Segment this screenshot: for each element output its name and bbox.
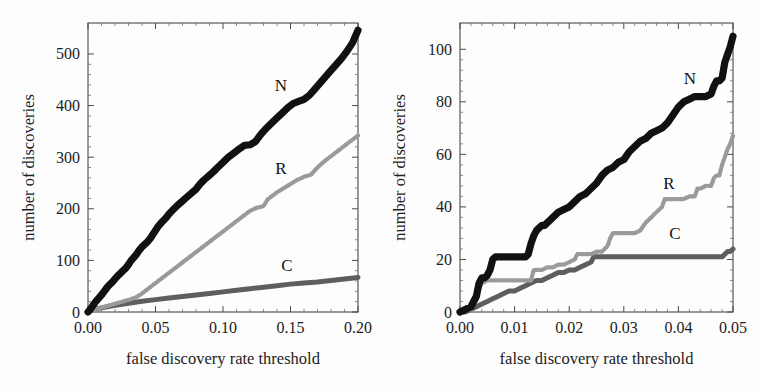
series-label-c: C <box>669 224 680 243</box>
chart-panel-left: 0.000.050.100.150.200100200300400500NRCf… <box>0 0 379 390</box>
x-tick-label: 0.05 <box>719 319 747 336</box>
y-tick-label: 200 <box>56 200 80 217</box>
figure-container: 0.000.050.100.150.200100200300400500NRCf… <box>0 0 758 390</box>
y-tick-label: 0 <box>72 304 80 321</box>
series-label-c: C <box>281 256 292 275</box>
x-axis-title: false discovery rate threshold <box>126 349 321 368</box>
x-tick-label: 0.10 <box>209 319 237 336</box>
chart-panel-right: 0.000.010.020.030.040.05020406080100NRCf… <box>379 0 758 390</box>
chart-svg-left: 0.000.050.100.150.200100200300400500NRCf… <box>0 0 379 390</box>
y-axis-title: number of discoveries <box>390 94 409 241</box>
y-axis-title: number of discoveries <box>19 94 38 241</box>
y-tick-label: 500 <box>56 45 80 62</box>
x-tick-label: 0.04 <box>664 319 692 336</box>
y-tick-label: 80 <box>436 93 452 110</box>
x-tick-label: 0.05 <box>142 319 170 336</box>
curve-n <box>88 30 358 312</box>
y-tick-label: 400 <box>56 97 80 114</box>
curve-r <box>460 136 733 312</box>
x-tick-label: 0.01 <box>501 319 529 336</box>
y-tick-label: 40 <box>436 198 452 215</box>
x-tick-label: 0.15 <box>277 319 305 336</box>
series-label-n: N <box>684 69 696 88</box>
chart-svg-right: 0.000.010.020.030.040.05020406080100NRCf… <box>379 0 758 390</box>
x-axis-title: false discovery rate threshold <box>500 349 695 368</box>
series-label-r: R <box>275 159 287 178</box>
series-label-n: N <box>275 76 287 95</box>
series-label-r: R <box>663 174 675 193</box>
x-tick-label: 0.02 <box>555 319 583 336</box>
y-tick-label: 60 <box>436 146 452 163</box>
y-tick-label: 100 <box>428 41 452 58</box>
y-tick-label: 0 <box>444 304 452 321</box>
x-tick-label: 0.20 <box>344 319 372 336</box>
y-tick-label: 100 <box>56 252 80 269</box>
x-tick-label: 0.00 <box>74 319 102 336</box>
y-tick-label: 20 <box>436 251 452 268</box>
x-tick-label: 0.03 <box>610 319 638 336</box>
x-tick-label: 0.00 <box>446 319 474 336</box>
y-tick-label: 300 <box>56 149 80 166</box>
